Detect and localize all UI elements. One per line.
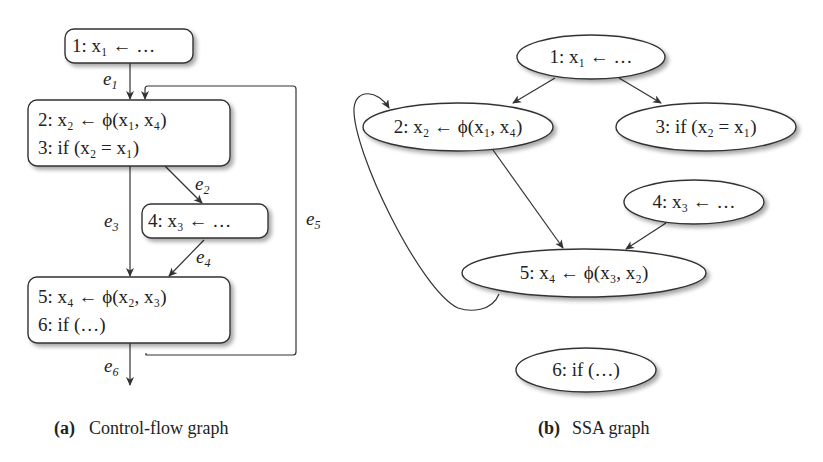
diagram-canvas: e1 e2 e3 e4 e5 e6 1: x₁ ← … 2: x₂ ← ϕ(x₁… [0,0,823,462]
edge-label-e6: e6 [104,355,118,379]
ssa-edge-2-5 [493,150,563,248]
control-flow-graph: e1 e2 e3 e4 e5 e6 1: x₁ ← … 2: x₂ ← ϕ(x₁… [28,29,320,439]
caption-a-tag: (a) [54,418,75,439]
caption-b-tag: (b) [538,418,560,439]
cfg-block-4-line-2: 6: if (…) [38,314,106,336]
cfg-block-2-line-2: 3: if (x₂ = x₁) [38,137,139,159]
caption-b-text: SSA graph [572,418,650,438]
ssa-node-6-label: 6: if (…) [552,359,620,381]
ssa-node-4-label: 4: x₃ ← … [652,191,735,212]
edge-label-e4: e4 [196,246,210,270]
edge-label-e3: e3 [104,210,118,234]
ssa-node-3-label: 3: if (x₂ = x₁) [655,116,756,138]
cfg-block-3-line-1: 4: x₃ ← … [148,210,231,231]
ssa-node-5-label: 5: x₄ ← ϕ(x₃, x₂) [520,262,649,284]
caption-a-text: Control-flow graph [89,418,228,438]
edge-label-e5: e5 [306,208,320,232]
cfg-block-4-line-1: 5: x₄ ← ϕ(x₂, x₃) [38,286,167,308]
cfg-block-2-line-1: 2: x₂ ← ϕ(x₁, x₄) [38,109,167,131]
edge-label-e1: e1 [103,68,117,92]
ssa-edge-1-2 [513,78,555,103]
ssa-node-1-label: 1: x₁ ← … [549,46,632,67]
edge-label-e2: e2 [195,173,209,197]
ssa-edge-1-3 [619,78,661,103]
cfg-block-1-line-1: 1: x₁ ← … [72,35,155,56]
ssa-edge-4-5 [626,223,666,249]
ssa-node-2-label: 2: x₂ ← ϕ(x₁, x₄) [394,116,523,138]
ssa-graph: 1: x₁ ← … 2: x₂ ← ϕ(x₁, x₄) 3: if (x₂ = … [354,35,796,439]
